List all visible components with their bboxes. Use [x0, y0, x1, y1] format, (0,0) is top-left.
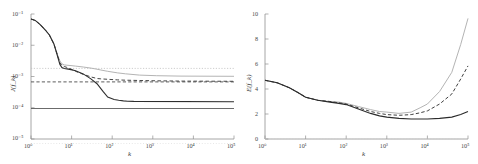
panel-right-error-plot: 10 8 6 4 2 0 10⁰ 10¹ 10² 10³ 10⁴ 10⁵ k E… — [239, 0, 478, 164]
right-y-axis-label: E(f_k) — [245, 75, 253, 93]
right-ytick-label-4: 8 — [255, 35, 258, 42]
right-xtick-label-5: 10⁵ — [461, 142, 469, 149]
left-x-axis-label: k — [128, 150, 131, 158]
right-ytick-label-0: 0 — [255, 135, 258, 142]
left-xtick-label-4: 10⁴ — [186, 142, 194, 149]
left-y-ticks — [31, 14, 35, 139]
left-xtick-label-1: 10¹ — [65, 142, 73, 149]
right-xtick-label-0: 10⁰ — [258, 142, 266, 149]
left-xtick-label-3: 10³ — [146, 142, 154, 149]
right-ytick-label-3: 6 — [255, 60, 258, 67]
left-xtick-label-5: 10⁵ — [227, 142, 235, 149]
right-series-dark-solid — [265, 80, 468, 119]
right-x-ticks — [265, 136, 468, 140]
panel-left-objective-plot: 10⁻¹ 10⁻² 10⁻³ 10⁻⁴ 10⁻⁵ 10⁰ 10¹ 10² 10³… — [0, 0, 239, 164]
left-ytick-label-4: 10⁻⁵ — [12, 134, 23, 141]
right-xtick-label-2: 10² — [339, 142, 347, 149]
right-ytick-label-1: 2 — [255, 110, 258, 117]
left-xtick-label-0: 10⁰ — [24, 142, 32, 149]
right-plot-canvas — [239, 0, 478, 164]
figure-two-panel-plots: 10⁻¹ 10⁻² 10⁻³ 10⁻⁴ 10⁻⁵ 10⁰ 10¹ 10² 10³… — [0, 0, 478, 164]
left-series-dark-solid — [31, 19, 234, 102]
left-plot-canvas — [0, 0, 239, 164]
right-y-ticks — [265, 14, 269, 139]
right-ytick-label-5: 10 — [252, 10, 258, 17]
left-ytick-label-0: 10⁻¹ — [12, 10, 23, 17]
left-ytick-label-3: 10⁻⁴ — [12, 103, 23, 110]
left-x-ticks — [31, 136, 234, 140]
left-y-axis-label: J(f_k) — [9, 76, 17, 92]
right-xtick-label-1: 10¹ — [299, 142, 307, 149]
right-x-axis-label: k — [362, 150, 365, 158]
left-series-dashed — [31, 19, 234, 81]
right-ytick-label-2: 4 — [255, 85, 258, 92]
right-xtick-label-4: 10⁴ — [420, 142, 428, 149]
right-series-light-solid — [265, 18, 468, 113]
left-xtick-label-2: 10² — [105, 142, 113, 149]
left-ytick-label-1: 10⁻² — [12, 41, 23, 48]
right-xtick-label-3: 10³ — [380, 142, 388, 149]
